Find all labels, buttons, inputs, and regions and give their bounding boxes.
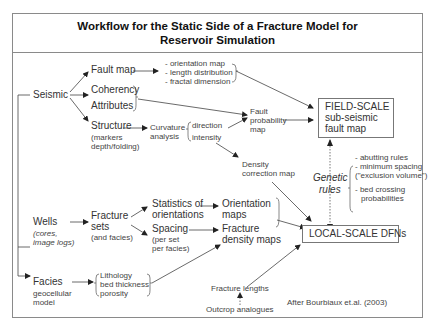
density-corr-label-1: Density <box>242 160 269 169</box>
facies-prop-2: bed thickness <box>100 280 149 289</box>
genetic-rules-label-1: Genetic <box>313 172 347 184</box>
intensity-label: intensity <box>192 133 221 142</box>
local-scale-label: LOCAL-SCALE DFNs <box>309 228 406 240</box>
field-scale-line-3: fault map <box>325 123 366 135</box>
genetic-rule-2: - minimum spacing <box>355 162 422 171</box>
orient-maps-label-1: Orientation <box>222 198 271 210</box>
fault-map-output-1: - orientation map <box>165 59 225 68</box>
wells-sub-2: image logs) <box>33 238 74 247</box>
density-maps-label-2: density maps <box>222 234 281 246</box>
fracture-sets-label-3: (and facies) <box>91 233 133 242</box>
curvature-label-2: analysis <box>150 132 179 141</box>
field-scale-line-2: sub-seismic <box>325 112 378 124</box>
genetic-rule-5: probabilities <box>361 194 404 203</box>
facies-prop-3: porosity <box>100 289 128 298</box>
facies-label: Facies <box>33 276 62 288</box>
coherency-label: Coherency <box>91 84 139 96</box>
structure-label: Structure <box>91 120 132 132</box>
facies-sub-2: model <box>33 298 55 307</box>
field-scale-box: FIELD-SCALE sub-seismic fault map <box>318 98 394 138</box>
genetic-rule-4: - bed crossing <box>355 185 405 194</box>
fracture-lengths-label: Fracture lengths <box>211 284 269 293</box>
citation: After Bourbiaux et.al. (2003) <box>287 298 387 307</box>
curvature-label-1: Curvature <box>150 123 185 132</box>
fault-map-label: Fault map <box>91 64 135 76</box>
local-scale-box: LOCAL-SCALE DFNs <box>302 225 399 243</box>
spacing-sub-2: per facies) <box>152 244 189 253</box>
direction-label: direction <box>192 121 222 130</box>
genetic-rule-3: ("exclusion volume") <box>355 171 427 180</box>
stats-label-1: Statistics of <box>152 198 203 210</box>
field-scale-line-1: FIELD-SCALE <box>325 101 389 113</box>
fault-prob-label-3: map <box>250 125 266 134</box>
fault-map-output-2: - length distribution <box>165 68 233 77</box>
density-corr-label-2: correction map <box>242 169 295 178</box>
stats-label-2: orientations <box>152 209 204 221</box>
spacing-sub-1: (per set <box>152 235 179 244</box>
fault-prob-label-2: probability <box>250 116 286 125</box>
density-maps-label-1: Fracture <box>222 223 259 235</box>
genetic-rule-1: - abutting rules <box>355 153 408 162</box>
facies-sub-1: geocellular <box>33 289 72 298</box>
genetic-rules-label-2: rules <box>319 184 341 196</box>
wells-sub-1: (cores, <box>33 229 57 238</box>
wells-label: Wells <box>33 216 57 228</box>
fault-prob-label-1: Fault <box>250 107 268 116</box>
outcrop-label: Outcrop analogues <box>206 305 274 314</box>
fault-map-output-3: - fractal dimension <box>165 77 230 86</box>
fracture-sets-label-1: Fracture <box>91 210 128 222</box>
structure-sub-1: (markers <box>91 133 123 142</box>
structure-sub-2: depth/folding) <box>91 142 139 151</box>
facies-prop-1: Lithology <box>100 271 132 280</box>
seismic-label: Seismic <box>33 89 68 101</box>
attributes-label: Attributes <box>91 100 133 112</box>
fracture-sets-label-2: sets <box>91 221 109 233</box>
spacing-label: Spacing <box>152 223 188 235</box>
orient-maps-label-2: maps <box>222 209 246 221</box>
